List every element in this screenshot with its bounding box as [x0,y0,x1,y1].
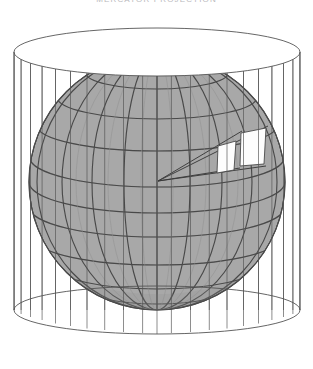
surface-patch [217,141,236,173]
mercator-projection-figure [0,0,313,369]
projected-patch [240,128,266,166]
cylinder-top-cap [14,28,300,76]
